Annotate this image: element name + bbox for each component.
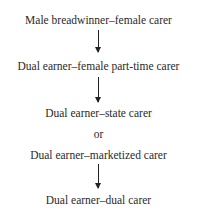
arrow-down-icon — [98, 164, 99, 188]
node-male-breadwinner-female-carer: Male breadwinner–female carer — [0, 13, 197, 27]
arrow-down-icon — [98, 77, 99, 102]
node-dual-earner-dual-carer: Dual earner–dual carer — [0, 193, 197, 207]
or-connector: or — [0, 127, 197, 141]
node-dual-earner-state-carer: Dual earner–state carer — [0, 106, 197, 120]
node-dual-earner-marketized-carer: Dual earner–marketized carer — [0, 148, 197, 162]
arrow-down-icon — [98, 30, 99, 52]
node-dual-earner-female-part-time-carer: Dual earner–female part-time carer — [0, 59, 197, 73]
